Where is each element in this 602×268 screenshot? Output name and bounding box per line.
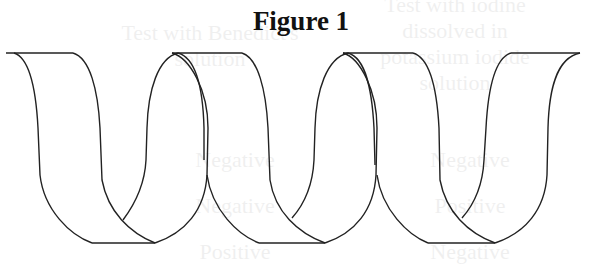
ribbon-edge-curve [292, 53, 348, 218]
ribbon-edge-curve [123, 53, 178, 220]
ribbon-edge-curve [413, 53, 495, 243]
ribbon-edge-curve [14, 53, 92, 243]
ribbon-edge-curve [495, 53, 580, 243]
ribbon-edge-curve [325, 53, 377, 243]
ribbon-edge-curve [73, 53, 155, 243]
ribbon-edge-curve [155, 53, 208, 243]
ribbon-edge-curve [377, 175, 428, 243]
ribbon-edge-curve [207, 175, 259, 243]
ribbon-edge-curve [462, 53, 511, 218]
ribbon-edge-curve [242, 53, 325, 243]
